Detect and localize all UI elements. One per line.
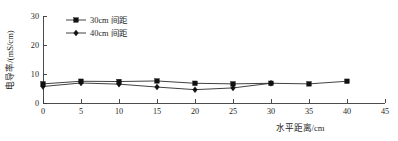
series-1 [41,79,350,86]
legend-entry: 40cm 间距 [66,29,128,38]
x-tick-label: 30 [267,107,275,116]
x-tick-label: 0 [41,107,45,116]
legend-entry: 30cm 间距 [66,16,128,25]
y-axis: 0102030 [31,12,47,108]
x-tick-label: 25 [229,107,237,116]
x-axis-title: 水平距离/cm [276,122,325,133]
chart-canvas: 0102030 051015202530354045 30cm 间距40cm 间… [0,0,398,141]
legend-marker [74,18,79,23]
y-tick-label: 0 [35,99,39,108]
y-tick-label: 10 [31,70,39,79]
legend-label: 30cm 间距 [90,16,128,25]
chart-legend: 30cm 间距40cm 间距 [66,16,128,38]
data-point [155,79,160,84]
legend-label: 40cm 间距 [90,29,128,38]
data-point [193,81,198,86]
x-tick-label: 35 [305,107,313,116]
x-tick-label: 5 [79,107,83,116]
x-tick-label: 10 [115,107,123,116]
legend-marker [74,30,79,36]
data-point [345,79,350,84]
y-tick-label: 30 [31,12,39,21]
x-tick-label: 15 [153,107,161,116]
data-point [307,82,312,87]
data-point [155,84,160,90]
x-tick-label: 40 [343,107,351,116]
data-series-layer [41,79,350,93]
conductivity-line-chart: 0102030 051015202530354045 30cm 间距40cm 间… [0,0,398,141]
x-axis: 051015202530354045 [41,99,389,116]
data-point [193,87,198,93]
x-tick-label: 20 [191,107,199,116]
x-tick-label: 45 [381,107,389,116]
y-tick-label: 20 [31,41,39,50]
y-axis-title: 电导率/(mS/cm) [4,30,15,90]
